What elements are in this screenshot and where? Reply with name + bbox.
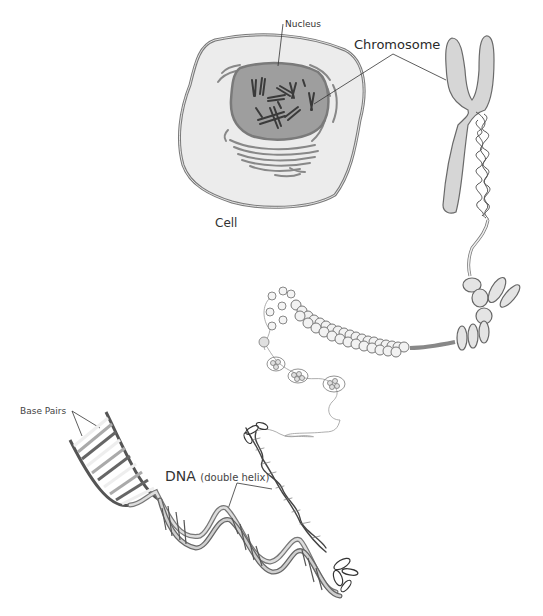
dna-leader (227, 483, 272, 512)
base-pairs-leader (72, 411, 100, 436)
dna-label-main: DNA (165, 468, 196, 484)
chromatin-fiber (264, 275, 523, 357)
dna-double-helix (70, 412, 340, 596)
coiled-chromatin (476, 112, 490, 220)
nucleosome-beads (266, 287, 295, 330)
nucleus-label: Nucleus (285, 20, 321, 29)
nucleus (231, 63, 328, 140)
chromosome-label: Chromosome (354, 38, 440, 51)
dna-label-sub: (double helix) (200, 472, 269, 483)
solenoid-fiber (291, 300, 409, 357)
base-pairs-label: Base Pairs (20, 407, 66, 416)
dna-helix-upper (242, 421, 358, 593)
cell-label: Cell (215, 217, 237, 229)
dna-label: DNA (double helix) (165, 469, 269, 483)
nucleosomes (259, 337, 345, 436)
dna-structure-diagram: Nucleus Chromosome Cell Base Pairs DNA (… (0, 0, 543, 616)
chromosome-illustration (443, 36, 494, 276)
cell-illustration (179, 35, 364, 208)
